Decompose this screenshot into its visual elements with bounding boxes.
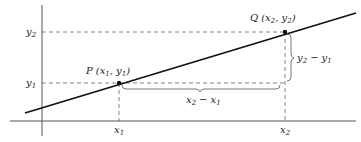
- x2-tick-label: x2: [280, 124, 291, 137]
- slope-diagram: y2 y1 x1 x2 P(x1, y1) Q(x2, y2) x2−x1 y2…: [0, 0, 361, 142]
- rise-label: y2−y1: [296, 52, 332, 65]
- diagram-svg: y2 y1 x1 x2 P(x1, y1) Q(x2, y2) x2−x1 y2…: [0, 0, 361, 142]
- y2-tick-label: y2: [25, 26, 37, 39]
- rise-brace: [287, 34, 294, 81]
- run-brace: [122, 85, 280, 92]
- point-p-label: P(x1, y1): [85, 65, 130, 78]
- point-q-label: Q(x2, y2): [250, 12, 296, 25]
- x1-tick-label: x1: [114, 124, 124, 137]
- point-p: [117, 81, 121, 85]
- y1-tick-label: y1: [25, 77, 36, 90]
- run-label: x2−x1: [186, 94, 221, 107]
- point-q: [283, 30, 287, 34]
